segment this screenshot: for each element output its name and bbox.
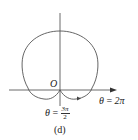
origin-label: O — [50, 79, 57, 89]
equals-sign: = — [106, 95, 112, 106]
fraction: 3π 2 — [61, 106, 70, 121]
theta-var: θ — [99, 95, 104, 106]
theta-3pi-2-label: θ = 3π 2 — [45, 106, 70, 121]
direction-arrow-icon — [77, 97, 81, 101]
equals-sign: = — [52, 107, 58, 118]
axis-arrow-icon — [110, 88, 117, 93]
theta-2pi-label: θ = 2π — [99, 96, 125, 106]
fraction-denominator: 2 — [61, 114, 70, 121]
theta-var: θ — [45, 107, 50, 118]
theta-value: 2π — [115, 95, 125, 106]
figure-caption: (d) — [54, 125, 66, 135]
